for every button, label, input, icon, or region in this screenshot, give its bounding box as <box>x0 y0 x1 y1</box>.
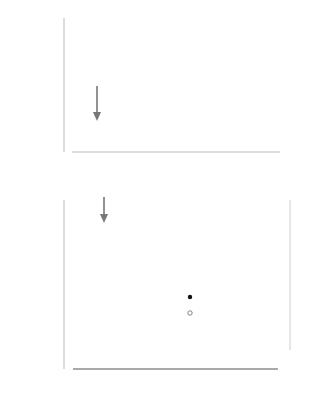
bottom-panel <box>64 197 290 369</box>
open-circle-icon <box>188 311 192 315</box>
legend <box>188 295 192 315</box>
top-panel <box>64 18 280 152</box>
filled-circle-icon <box>188 295 192 299</box>
figure <box>0 0 322 408</box>
maximum-arrow-icon <box>100 197 108 223</box>
minimum-arrow-icon <box>93 86 101 121</box>
